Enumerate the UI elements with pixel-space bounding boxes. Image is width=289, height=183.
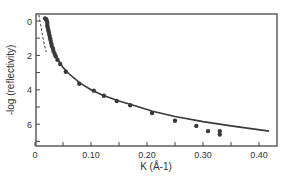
data-point [206,129,210,133]
y-tick-label: 6 [27,120,32,130]
axes-box [36,14,277,146]
data-point [173,119,177,123]
x-tick-label: 0.10 [82,150,100,160]
y-tick-label: 2 [27,51,32,61]
plot-frame [36,14,277,146]
x-tick-label: 0.30 [194,150,212,160]
y-tick-label: 4 [27,85,32,95]
data-point [218,132,222,136]
y-axis-label: -log (reflectivity) [5,45,16,116]
y-axis-ticks: 0246 [27,17,40,142]
x-axis-ticks: 00.100.200.300.40 [32,142,267,160]
series-layer [39,15,269,137]
x-tick-label: 0.40 [250,150,268,160]
x-tick-label: 0 [32,150,37,160]
fit-curve [46,26,269,131]
measured-points [43,16,222,137]
y-tick-label: 0 [27,17,32,27]
reflectivity-chart: 00.100.200.300.40 0246 K (Å-1) -log (ref… [0,0,289,183]
x-axis-label: K (Å-1) [140,160,172,172]
x-tick-label: 0.20 [138,150,156,160]
data-point [194,124,198,128]
